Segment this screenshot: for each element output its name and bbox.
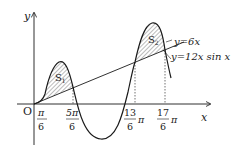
tick-pi-6: π 6 <box>37 107 47 132</box>
svg-text:6: 6 <box>127 121 133 132</box>
svg-text:π: π <box>170 114 178 125</box>
curve-label-sinx: y=12x sin x <box>170 51 231 62</box>
x-axis-label: x <box>201 111 208 124</box>
svg-text:5π: 5π <box>66 107 79 118</box>
svg-text:π: π <box>37 107 45 118</box>
diagram-canvas: y x O S1 S2 y=6x y=12x sin x π 6 5π 6 13… <box>0 0 246 148</box>
svg-text:π: π <box>137 114 145 125</box>
tick-13-6-pi: 13 6 π <box>124 107 145 132</box>
svg-text:6: 6 <box>69 121 75 132</box>
line-label-6x: y=6x <box>173 36 200 47</box>
leader-line-6x <box>166 40 172 42</box>
svg-text:13: 13 <box>124 107 136 118</box>
y-axis-label: y <box>23 10 31 23</box>
svg-text:17: 17 <box>157 107 169 118</box>
tick-5pi-6: 5π 6 <box>66 107 79 132</box>
origin-label: O <box>23 105 32 118</box>
svg-text:6: 6 <box>38 121 44 132</box>
svg-text:6: 6 <box>160 121 166 132</box>
tick-17-6-pi: 17 6 π <box>157 107 178 132</box>
